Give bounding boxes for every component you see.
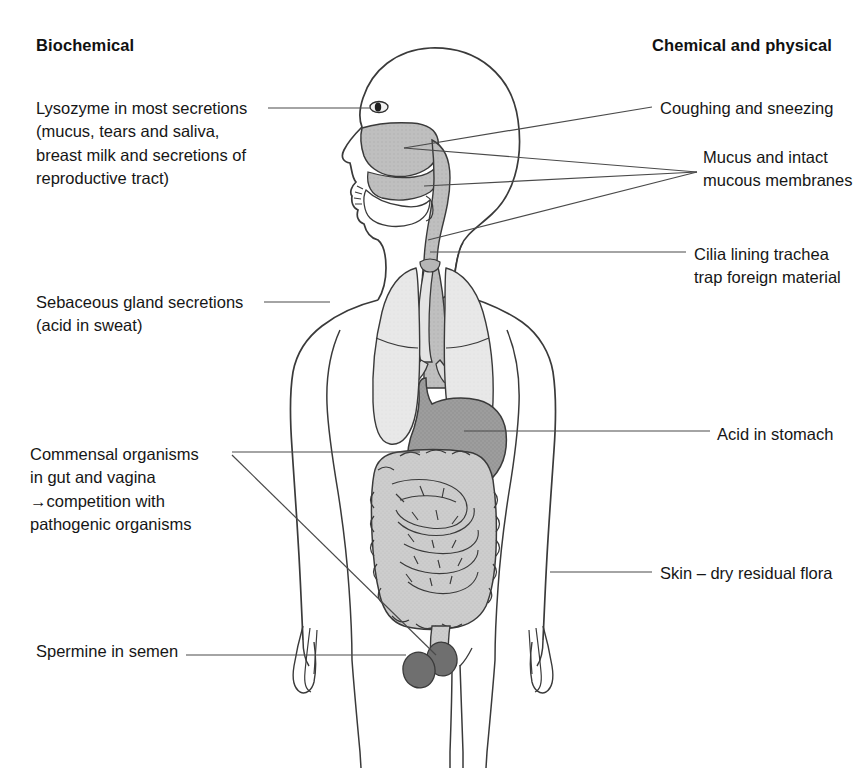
label-coughing-and-sneezing: Coughing and sneezing bbox=[660, 97, 866, 120]
label-mucus-and-mucous-membranes: Mucus and intact mucous membranes bbox=[703, 146, 866, 193]
waist-left-outline bbox=[327, 330, 352, 660]
inner-left-leg-outline bbox=[450, 665, 452, 768]
inner-right-leg-outline bbox=[460, 665, 463, 768]
waist-right-outline bbox=[495, 330, 519, 660]
label-cilia-lining-trachea: Cilia lining trachea trap foreign materi… bbox=[694, 243, 866, 290]
teeth bbox=[354, 186, 363, 204]
leader-coughing bbox=[404, 107, 652, 148]
label-spermine-in-semen: Spermine in semen bbox=[36, 640, 256, 663]
heading-chemical-and-physical: Chemical and physical bbox=[652, 36, 832, 55]
large-intestine bbox=[371, 450, 496, 630]
label-skin-dry-residual-flora: Skin – dry residual flora bbox=[660, 562, 866, 585]
label-commensal-organisms: Commensal organisms in gut and vagina →c… bbox=[30, 443, 280, 537]
label-lysozyme: Lysozyme in most secretions (mucus, tear… bbox=[36, 97, 336, 191]
leader-mucus-b bbox=[424, 172, 697, 186]
intestines-group bbox=[371, 450, 500, 664]
right-lung bbox=[373, 268, 420, 444]
label-sebaceous-gland-secretions: Sebaceous gland secretions (acid in swea… bbox=[36, 291, 326, 338]
diagram-canvas: Biochemical Chemical and physical Lysozy… bbox=[0, 0, 866, 772]
eye bbox=[370, 102, 388, 113]
heading-biochemical: Biochemical bbox=[36, 36, 134, 55]
right-leg-outline bbox=[486, 660, 495, 768]
label-acid-in-stomach: Acid in stomach bbox=[717, 423, 866, 446]
left-leg-outline bbox=[352, 660, 361, 768]
leader-mucus-c bbox=[428, 172, 697, 240]
larynx bbox=[420, 259, 440, 272]
upper-airway-group bbox=[354, 102, 450, 265]
